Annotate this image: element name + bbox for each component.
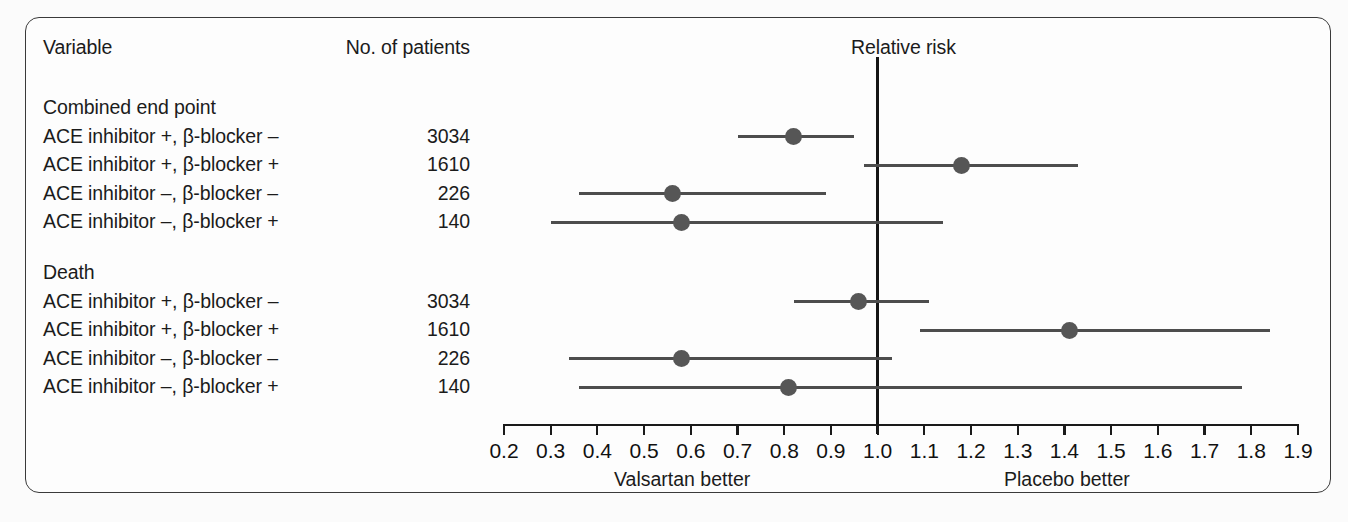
footer-label-placebo-better: Placebo better: [1004, 468, 1130, 491]
footer-label-valsartan-better: Valsartan better: [614, 468, 750, 491]
row-label: ACE inhibitor –, β-blocker –: [43, 184, 278, 204]
group-title: Death: [43, 263, 95, 283]
row-label: ACE inhibitor +, β-blocker –: [43, 127, 278, 147]
row-patient-count: 1610: [300, 155, 470, 175]
row-patient-count: 3034: [300, 127, 470, 147]
row-patient-count: 3034: [300, 292, 470, 312]
figure-frame: [25, 17, 1331, 493]
row-patient-count: 226: [300, 184, 470, 204]
forest-plot-figure: Variable No. of patients Relative risk C…: [0, 0, 1348, 522]
row-label: ACE inhibitor –, β-blocker –: [43, 349, 278, 369]
row-patient-count: 226: [300, 349, 470, 369]
row-patient-count: 1610: [300, 320, 470, 340]
group-title: Combined end point: [43, 98, 216, 118]
row-patient-count: 140: [300, 377, 470, 397]
row-label: ACE inhibitor +, β-blocker +: [43, 320, 279, 340]
column-header-variable: Variable: [43, 38, 112, 58]
row-label: ACE inhibitor –, β-blocker +: [43, 212, 278, 232]
row-patient-count: 140: [300, 212, 470, 232]
column-header-patients: No. of patients: [300, 38, 470, 58]
row-label: ACE inhibitor –, β-blocker +: [43, 377, 278, 397]
row-label: ACE inhibitor +, β-blocker +: [43, 155, 279, 175]
column-header-relative-risk: Relative risk: [851, 38, 956, 58]
row-label: ACE inhibitor +, β-blocker –: [43, 292, 278, 312]
